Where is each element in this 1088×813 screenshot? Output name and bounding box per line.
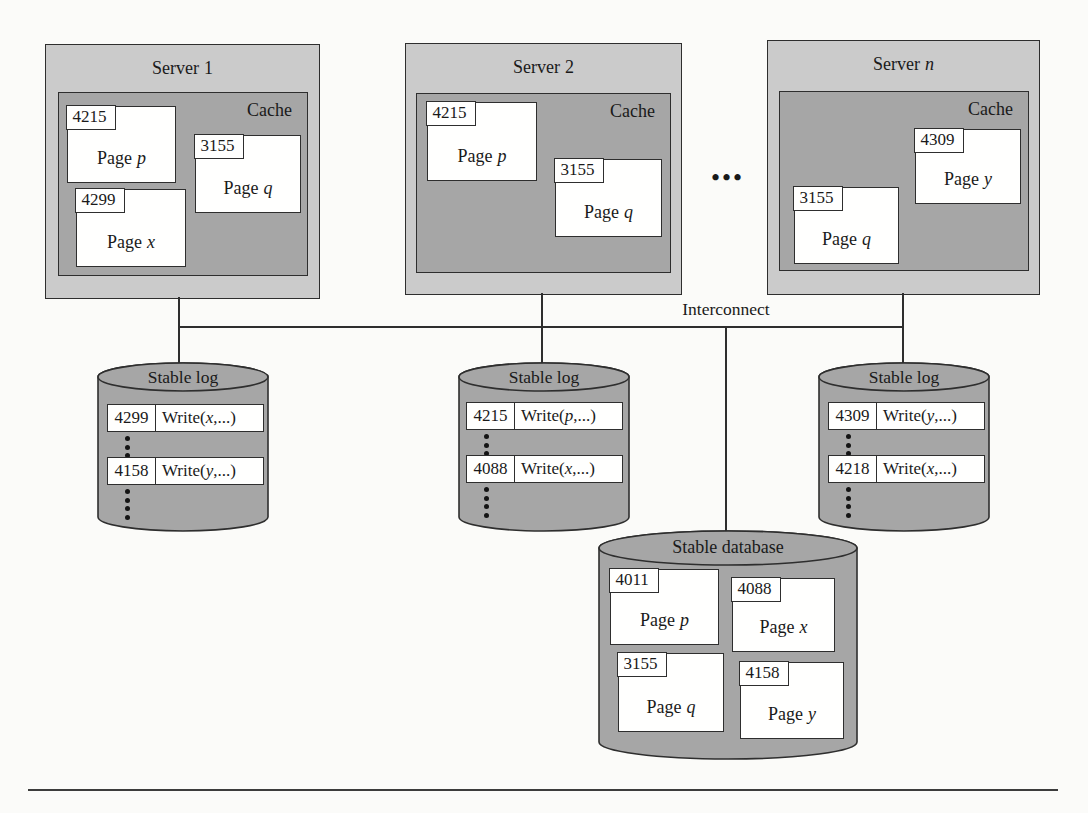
db-page-q: 3155 Pageq xyxy=(618,653,724,732)
page-label: Pagep xyxy=(68,148,175,169)
page-word: Page xyxy=(584,202,619,222)
stable-log-title: Stable log xyxy=(458,367,630,388)
log-record: 4309 Write(y,...) xyxy=(828,402,985,430)
page-word: Page xyxy=(107,232,142,252)
op-suffix: ,...) xyxy=(934,406,957,426)
op-suffix: ,...) xyxy=(934,459,957,479)
page-var: p xyxy=(680,610,689,630)
op-prefix: Write( xyxy=(883,459,927,479)
page-word: Page xyxy=(647,697,682,717)
op-prefix: Write( xyxy=(883,406,927,426)
log-record: 4215 Write(p,...) xyxy=(466,402,623,430)
servers-ellipsis-icon: ••• xyxy=(702,166,754,189)
op-var: x xyxy=(927,459,935,479)
page-word: Page xyxy=(458,146,493,166)
page-word: Page xyxy=(760,617,795,637)
server-2-box: Server2 Cache 4215 Pagep 3155 Pageq xyxy=(405,43,682,295)
page-var: y xyxy=(808,704,816,724)
page-var: q xyxy=(264,178,273,198)
page-label: Pagey xyxy=(916,169,1020,190)
page-lsn-tag: 3155 xyxy=(194,134,244,159)
server-title-text: Server xyxy=(152,58,199,78)
log-operation: Write(x,...) xyxy=(515,456,622,482)
log-lsn: 4309 xyxy=(829,403,877,429)
page-label: Pagey xyxy=(741,704,843,725)
op-var: p xyxy=(565,406,574,426)
cache-page-q: 3155 Pageq xyxy=(794,187,899,264)
server-title-text: Server xyxy=(513,57,560,77)
page-label: Pagep xyxy=(611,610,718,631)
db-page-x: 4088 Pagex xyxy=(732,578,835,652)
cache-page-x: 4299 Pagex xyxy=(76,189,186,267)
stable-log-1: Stable log 4299 Write(x,...) 4158 Write(… xyxy=(97,362,269,532)
page-lsn-tag: 4215 xyxy=(66,105,116,130)
database-drop-line xyxy=(725,327,727,532)
page-word: Page xyxy=(640,610,675,630)
db-page-y: 4158 Pagey xyxy=(740,662,844,739)
page-lsn-tag: 4158 xyxy=(739,661,789,686)
op-prefix: Write( xyxy=(162,461,206,481)
page-lsn-tag: 4299 xyxy=(75,188,125,213)
log-record: 4299 Write(x,...) xyxy=(107,404,264,432)
log-operation: Write(p,...) xyxy=(515,403,622,429)
page-word: Page xyxy=(97,148,132,168)
page-var: q xyxy=(687,697,696,717)
cache-page-y: 4309 Pagey xyxy=(915,129,1021,204)
db-page-p: 4011 Pagep xyxy=(610,569,719,645)
cache-page-p: 4215 Pagep xyxy=(427,102,537,181)
server-title-text: Server xyxy=(873,54,920,74)
page-label: Pageq xyxy=(556,202,661,223)
page-var: p xyxy=(498,146,507,166)
cache-label: Cache xyxy=(247,100,292,121)
page-var: y xyxy=(984,169,992,189)
log-operation: Write(x,...) xyxy=(877,456,984,482)
vertical-ellipsis-icon xyxy=(484,487,489,518)
server-n-drop-line xyxy=(902,293,904,363)
stable-log-2: Stable log 4215 Write(p,...) 4088 Write(… xyxy=(458,362,630,532)
stable-log-title: Stable log xyxy=(818,367,990,388)
page-lsn-tag: 4088 xyxy=(731,577,781,602)
log-lsn: 4218 xyxy=(829,456,877,482)
log-lsn: 4158 xyxy=(108,458,156,484)
server-n-title: Servern xyxy=(768,54,1039,75)
log-lsn: 4088 xyxy=(467,456,515,482)
diagram-canvas: Server1 Cache 4215 Pagep 3155 Pageq 4299… xyxy=(0,0,1088,813)
server-title-number: n xyxy=(925,54,934,74)
interconnect-bus-line xyxy=(178,326,904,328)
server-title-number: 2 xyxy=(565,57,574,77)
log-operation: Write(x,...) xyxy=(156,405,263,431)
log-record: 4218 Write(x,...) xyxy=(828,455,985,483)
page-var: q xyxy=(862,229,871,249)
log-lsn: 4215 xyxy=(467,403,515,429)
page-label: Pageq xyxy=(619,697,723,718)
log-record: 4088 Write(x,...) xyxy=(466,455,623,483)
page-word: Page xyxy=(224,178,259,198)
server-1-box: Server1 Cache 4215 Pagep 3155 Pageq 4299… xyxy=(45,44,320,299)
stable-database-title: Stable database xyxy=(598,537,858,558)
page-label: Pageq xyxy=(795,229,898,250)
op-var: x xyxy=(565,459,573,479)
page-var: x xyxy=(800,617,808,637)
stable-log-3: Stable log 4309 Write(y,...) 4218 Write(… xyxy=(818,362,990,532)
log-lsn: 4299 xyxy=(108,405,156,431)
page-var: x xyxy=(147,232,155,252)
page-lsn-tag: 4011 xyxy=(609,568,658,593)
op-suffix: ,...) xyxy=(213,461,236,481)
op-prefix: Write( xyxy=(521,406,565,426)
page-word: Page xyxy=(768,704,803,724)
server-1-cache-box: Cache 4215 Pagep 3155 Pageq 4299 Pagex xyxy=(58,92,308,276)
page-word: Page xyxy=(944,169,979,189)
bottom-separator-rule xyxy=(28,789,1058,791)
cache-page-q: 3155 Pageq xyxy=(195,135,301,213)
server-title-number: 1 xyxy=(204,58,213,78)
server-n-box: Servern Cache 4309 Pagey 3155 Pageq xyxy=(767,40,1040,295)
page-label: Pageq xyxy=(196,178,300,199)
page-lsn-tag: 3155 xyxy=(793,186,843,211)
page-lsn-tag: 4309 xyxy=(914,128,964,153)
page-lsn-tag: 3155 xyxy=(617,652,667,677)
server-1-title: Server1 xyxy=(46,58,319,79)
page-label: Pagex xyxy=(77,232,185,253)
vertical-ellipsis-icon xyxy=(125,489,130,520)
page-lsn-tag: 3155 xyxy=(554,158,604,183)
server-1-drop-line xyxy=(178,297,180,363)
